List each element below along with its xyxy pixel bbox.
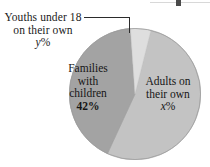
slice-label-adults-on-their-own: Adults on their own x% (139, 75, 197, 113)
families-percent-sign: % (88, 100, 100, 112)
adults-percent-sign: % (166, 100, 176, 112)
callout-line-2: on their own (2, 24, 84, 37)
callout-leader-line-vertical (129, 17, 130, 33)
callout-value: y% (2, 36, 84, 49)
families-label-line-1: Families (60, 62, 116, 75)
callout-line-1: Youths under 18 (2, 11, 84, 24)
slice-label-families-with-children: Families with children 42% (60, 62, 116, 112)
adults-label-line-2: their own (139, 88, 197, 101)
families-value-number: 42 (77, 100, 89, 112)
families-label-line-2: with (60, 75, 116, 88)
callout-percent-sign: % (41, 36, 51, 48)
scan-artifact-mark (176, 0, 181, 6)
callout-leader-line-horizontal (84, 17, 130, 18)
callout-label-youths-under-18: Youths under 18 on their own y% (2, 11, 84, 49)
families-label-line-3: children (60, 87, 116, 100)
families-value: 42% (60, 100, 116, 113)
adults-label-line-1: Adults on (139, 75, 197, 88)
pie-chart-figure: Youths under 18 on their own y% Families… (0, 0, 210, 167)
adults-value: x% (139, 100, 197, 113)
